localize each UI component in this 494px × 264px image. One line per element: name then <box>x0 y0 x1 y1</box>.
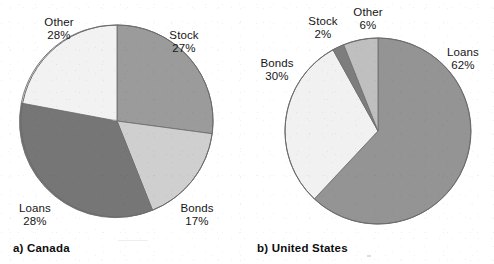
label-stock-percent: 27% <box>155 42 213 55</box>
caption-canada: a) Canada <box>13 242 70 254</box>
label-bonds: Bonds 30% <box>249 57 305 83</box>
label-bonds: Bonds 17% <box>168 202 226 228</box>
label-bonds-name: Bonds <box>249 57 305 70</box>
label-loans: Loans 62% <box>435 46 491 72</box>
scan-speck <box>113 119 116 121</box>
label-loans-name: Loans <box>435 46 491 59</box>
panel-canada: Other 28% Stock 27% Bonds 17% Loans 28% … <box>0 0 247 264</box>
label-loans-percent: 62% <box>435 59 491 72</box>
panel-united-states: Stock 2% Other 6% Bonds 30% Loans 62% b)… <box>247 0 494 264</box>
label-other-percent: 28% <box>30 29 88 42</box>
label-stock: Stock 27% <box>155 29 213 55</box>
label-bonds-percent: 17% <box>168 215 226 228</box>
scan-speck <box>118 240 148 241</box>
label-loans-name: Loans <box>6 202 64 215</box>
label-other-percent: 6% <box>340 19 396 32</box>
label-other: Other 6% <box>340 6 396 32</box>
label-loans: Loans 28% <box>6 202 64 228</box>
label-loans-percent: 28% <box>6 215 64 228</box>
label-other-name: Other <box>30 16 88 29</box>
label-bonds-name: Bonds <box>168 202 226 215</box>
label-other: Other 28% <box>30 16 88 42</box>
pie-chart-figure: Other 28% Stock 27% Bonds 17% Loans 28% … <box>0 0 494 264</box>
label-other-name: Other <box>340 6 396 19</box>
caption-united-states: b) United States <box>257 242 348 254</box>
label-stock-name: Stock <box>155 29 213 42</box>
scan-speck <box>367 255 371 257</box>
label-bonds-percent: 30% <box>249 70 305 83</box>
